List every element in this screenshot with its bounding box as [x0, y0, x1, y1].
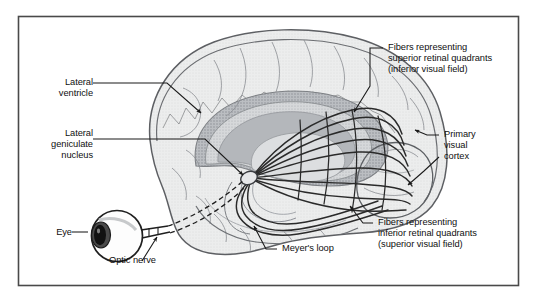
eyeball — [92, 211, 143, 262]
label-fibers-superior-retinal-quadrants: Fibers representing superior retinal qua… — [388, 42, 492, 76]
label-eye: Eye — [0, 227, 72, 238]
label-optic-nerve: Optic nerve — [109, 255, 156, 266]
label-meyers-loop: Meyer's loop — [282, 243, 334, 254]
label-lateral-ventricle: Lateral ventricle — [0, 77, 93, 99]
label-fibers-inferior-retinal-quadrants: Fibers representing inferior retinal qua… — [378, 217, 477, 251]
label-lateral-geniculate-nucleus: Lateral geniculate nucleus — [0, 128, 93, 162]
visual-pathway-figure: Lateral ventricle Lateral geniculate nuc… — [0, 0, 537, 301]
label-primary-visual-cortex: Primary visual cortex — [444, 129, 476, 163]
